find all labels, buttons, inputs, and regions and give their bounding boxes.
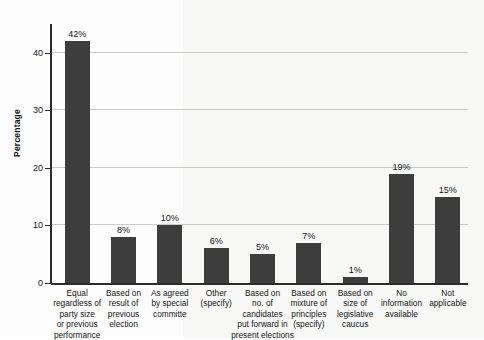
bar-value-label: 10% xyxy=(147,213,192,223)
y-axis-title: Percentage xyxy=(12,88,22,178)
bar-value-label: 6% xyxy=(194,236,239,246)
bar-value-label: 7% xyxy=(286,231,331,241)
bar-value-label: 19% xyxy=(379,162,424,172)
y-axis-tick xyxy=(45,283,51,284)
bar-value-label: 1% xyxy=(333,265,378,275)
x-axis-category-labels: Equal regardless of party size or previo… xyxy=(51,288,468,338)
gridline xyxy=(51,109,468,110)
y-tick-label: 0 xyxy=(3,278,43,288)
y-tick-label: 10 xyxy=(3,220,43,230)
bar-value-label: 8% xyxy=(101,225,146,235)
bar xyxy=(389,174,414,283)
bar-value-label: 15% xyxy=(425,185,470,195)
plot-area: 42%8%10%6%5%7%1%19%15% xyxy=(51,24,468,283)
bar-value-label: 5% xyxy=(240,242,285,252)
y-axis-tick xyxy=(45,53,51,54)
y-axis-tick xyxy=(45,225,51,226)
bar-value-label: 42% xyxy=(55,29,100,39)
y-axis-tick xyxy=(45,168,51,169)
x-category-label: Not applicable xyxy=(416,288,480,309)
bar xyxy=(65,41,90,283)
y-axis-tick xyxy=(45,110,51,111)
x-axis-spine xyxy=(51,283,468,285)
y-axis-spine xyxy=(50,24,52,284)
bar xyxy=(250,254,275,283)
bar xyxy=(296,243,321,283)
bar xyxy=(204,248,229,283)
y-tick-label: 30 xyxy=(3,105,43,115)
y-tick-label: 40 xyxy=(3,48,43,58)
bar xyxy=(111,237,136,283)
y-tick-label: 20 xyxy=(3,163,43,173)
bar xyxy=(435,197,460,283)
chart-title xyxy=(0,0,484,2)
bar xyxy=(157,225,182,283)
gridline xyxy=(51,52,468,53)
